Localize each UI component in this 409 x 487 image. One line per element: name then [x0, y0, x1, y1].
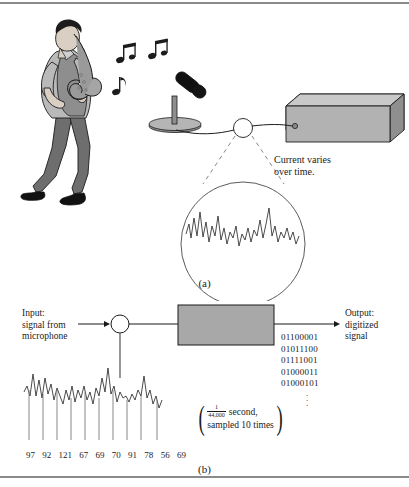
- vertical-ellipsis-icon: ...: [281, 391, 333, 406]
- sample-values-row: 97 92 121 67 69 70 91 78 56 69: [26, 450, 186, 460]
- right-paren: ): [276, 405, 282, 431]
- bit-line: 01100001: [281, 332, 333, 344]
- sampled-waveform-group: [24, 368, 162, 440]
- sample-value: 91: [128, 450, 137, 460]
- sampling-rate-note: ( 1 44,000 second, sampled 10 times ): [196, 404, 285, 431]
- caption-a: (a): [0, 277, 409, 289]
- current-varies-label: Current varies over time.: [274, 154, 331, 178]
- sample-value: 97: [26, 450, 35, 460]
- panel-a-artwork: [0, 6, 409, 301]
- output-label: Output: digitized signal: [345, 308, 378, 343]
- magnifier-leader-lines: [203, 136, 284, 184]
- input-arrow-icon: [78, 321, 110, 327]
- sample-value: 69: [177, 450, 186, 460]
- figure-page: Current varies over time. (a): [0, 0, 409, 487]
- bit-line: 01000011: [281, 367, 333, 379]
- sampling-node-icon: [111, 315, 129, 333]
- output-arrow-icon: [274, 321, 340, 327]
- fraction-numerator: 1: [214, 404, 219, 411]
- rate-second-line: sampled 10 times: [207, 419, 274, 431]
- sampling-fraction: 1 44,000: [207, 404, 226, 419]
- saxophone-player: [21, 20, 102, 205]
- sample-value: 69: [96, 450, 105, 460]
- sample-value: 121: [59, 450, 73, 460]
- adc-box: [178, 305, 274, 345]
- sample-value: 67: [79, 450, 88, 460]
- rate-unit: second,: [229, 406, 258, 418]
- panel-a: Current varies over time.: [0, 6, 409, 301]
- music-notes-icon: [111, 38, 168, 96]
- microphone-icon: [149, 70, 208, 133]
- bit-line: 01111001: [281, 355, 333, 367]
- sample-tick-marks: [29, 390, 157, 440]
- sample-value: 78: [144, 450, 153, 460]
- sample-value: 92: [42, 450, 51, 460]
- amplifier-box: [286, 94, 404, 142]
- sample-value: 56: [161, 450, 170, 460]
- caption-b: (b): [0, 463, 409, 475]
- input-label: Input: signal from microphone: [22, 308, 67, 343]
- fraction-denominator: 44,000: [207, 412, 226, 419]
- bit-stream: 01100001 01011100 01111001 01000011 0100…: [281, 332, 333, 406]
- top-rule: [0, 2, 409, 4]
- bit-line: 01011100: [281, 344, 333, 356]
- left-paren: (: [199, 405, 205, 431]
- sample-value: 70: [112, 450, 121, 460]
